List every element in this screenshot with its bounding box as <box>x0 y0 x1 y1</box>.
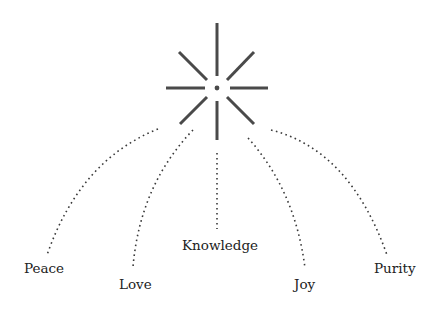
label-love: Love <box>119 276 152 292</box>
label-joy: Joy <box>292 276 316 292</box>
star-center-dot <box>215 86 220 91</box>
star-icon <box>166 23 268 140</box>
label-knowledge: Knowledge <box>182 237 258 253</box>
connector-purity <box>271 130 387 255</box>
label-purity: Purity <box>374 260 416 276</box>
star-diagram: Peace Love Knowledge Joy Purity <box>0 0 436 309</box>
connector-peace <box>47 129 158 255</box>
star-ray-lower-left <box>180 97 207 124</box>
star-ray-upper-right <box>227 52 254 80</box>
star-ray-lower-right <box>227 97 254 124</box>
star-ray-upper-left <box>179 52 207 80</box>
label-peace: Peace <box>24 260 64 276</box>
branch-labels: Peace Love Knowledge Joy Purity <box>24 237 416 292</box>
